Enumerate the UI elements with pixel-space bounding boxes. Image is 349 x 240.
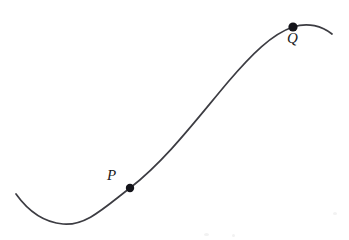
point-label-p: P [107,168,116,183]
scan-speckle [333,212,337,215]
curve-path [16,25,332,224]
figure-canvas: P Q [0,0,349,240]
point-label-q: Q [287,31,298,46]
scan-speckle [232,234,235,237]
point-marker-p [126,184,134,192]
scan-speckle [204,233,209,236]
